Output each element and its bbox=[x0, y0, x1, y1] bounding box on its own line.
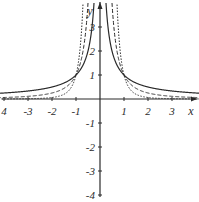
curve-solid-left bbox=[0, 3, 94, 93]
curve-dashed-left bbox=[0, 3, 88, 98]
curve-dotted-left bbox=[0, 5, 83, 99]
y-tick-label: 1 bbox=[90, 69, 96, 81]
x-tick-label: 4 bbox=[1, 105, 7, 117]
y-tick-label: 2 bbox=[90, 45, 96, 57]
y-tick-label: -3 bbox=[86, 165, 96, 177]
tick-labels: 4-3-2-1123x-4-3-2-1123y bbox=[1, 4, 194, 201]
x-tick-label: -2 bbox=[47, 105, 57, 117]
axes bbox=[2, 2, 197, 197]
function-plot: 4-3-2-1123x-4-3-2-1123y bbox=[0, 0, 199, 202]
curve-dotted-right bbox=[117, 5, 199, 99]
x-tick-label: 2 bbox=[145, 105, 151, 117]
y-tick-label: 3 bbox=[89, 21, 96, 33]
x-tick-label: -3 bbox=[23, 105, 33, 117]
x-axis-label: x bbox=[187, 104, 194, 118]
y-tick-label: -4 bbox=[86, 189, 96, 201]
x-tick-label: 3 bbox=[168, 105, 175, 117]
x-tick-label: 1 bbox=[121, 105, 127, 117]
y-axis-label: y bbox=[86, 4, 93, 18]
y-axis-arrow-icon bbox=[98, 2, 103, 9]
y-tick-label: -1 bbox=[86, 117, 95, 129]
curve-dashed-right bbox=[112, 3, 199, 98]
curve-solid-right bbox=[106, 3, 199, 93]
y-tick-label: -2 bbox=[86, 141, 96, 153]
x-tick-label: -1 bbox=[71, 105, 80, 117]
